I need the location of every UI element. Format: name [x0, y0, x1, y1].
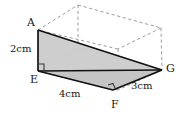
cuboid-top-back-right-edge	[78, 5, 161, 28]
vertex-label-g: G	[166, 63, 175, 74]
cuboid-top-back-left-edge	[38, 5, 78, 30]
cuboid-top-front-right-edge	[118, 28, 161, 49]
cuboid-vertical-edge-right	[161, 28, 162, 70]
vertex-label-f: F	[111, 99, 119, 110]
vertex-label-a: A	[27, 17, 35, 28]
measurement-label-depth: 3cm	[131, 81, 152, 91]
edge-E-G	[38, 70, 162, 71]
measurement-label-length: 4cm	[59, 89, 80, 99]
geometry-figure: A E F G 2cm 4cm 3cm	[0, 0, 182, 116]
vertex-label-e: E	[30, 74, 38, 85]
measurement-label-height: 2cm	[10, 44, 31, 54]
